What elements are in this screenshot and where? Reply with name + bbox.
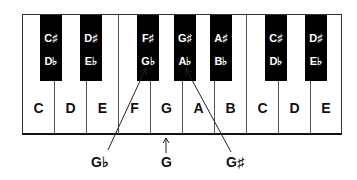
key-label: B — [215, 100, 246, 116]
sharp-label: D♯ — [305, 32, 327, 44]
black-key-ds: D♯E♭ — [80, 15, 102, 81]
flat-label: G♭ — [137, 55, 159, 68]
black-key-gs: G♯A♭ — [174, 15, 196, 81]
key-label: C — [23, 100, 54, 116]
black-key-cs2: C♯D♭ — [265, 15, 287, 81]
flat-label: D♭ — [265, 55, 287, 68]
piano-keyboard: C D E F G A B C D E C♯D♭ D♯E♭ F♯G♭ G♯A♭ … — [22, 14, 342, 135]
callout-g-flat: G♭ — [91, 154, 109, 170]
flat-label: A♭ — [174, 55, 196, 68]
sharp-label: C♯ — [265, 32, 287, 44]
black-key-ds2: D♯E♭ — [305, 15, 327, 81]
black-key-cs: C♯D♭ — [40, 15, 62, 81]
flat-label: E♭ — [80, 55, 102, 68]
sharp-label: G♯ — [174, 32, 196, 44]
key-label: F — [119, 100, 150, 116]
flat-label: E♭ — [305, 55, 327, 68]
flat-label: B♭ — [210, 55, 232, 68]
key-label: E — [87, 100, 118, 116]
black-key-fs: F♯G♭ — [137, 15, 159, 81]
key-label: D — [55, 100, 86, 116]
key-label: G — [151, 100, 182, 116]
sharp-label: A♯ — [210, 32, 232, 44]
key-label: D — [279, 100, 310, 116]
sharp-label: D♯ — [80, 32, 102, 44]
key-label: C — [247, 100, 278, 116]
callout-g: G — [161, 154, 172, 170]
sharp-label: C♯ — [40, 32, 62, 44]
key-label: E — [311, 100, 341, 116]
black-key-as: A♯B♭ — [210, 15, 232, 81]
flat-label: D♭ — [40, 55, 62, 68]
key-label: A — [183, 100, 214, 116]
callout-g-sharp: G♯ — [226, 154, 244, 170]
sharp-label: F♯ — [137, 32, 159, 44]
